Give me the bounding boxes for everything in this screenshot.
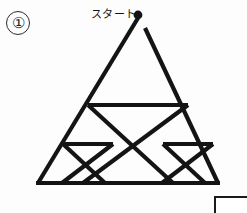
start-point-dot: [134, 11, 143, 20]
outer-left-edge: [38, 18, 138, 183]
puzzle-figure-container: ① スタート: [0, 0, 247, 213]
triangle-figure: [0, 0, 247, 213]
triangle-segment-group: [36, 18, 220, 183]
answer-input-box[interactable]: [214, 196, 247, 213]
